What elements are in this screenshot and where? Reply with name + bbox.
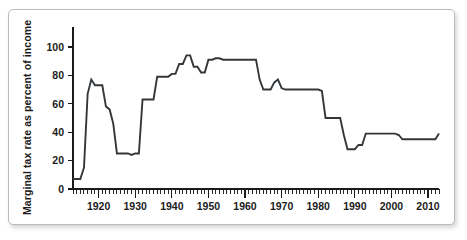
x-tick-label: 1950 — [197, 200, 221, 212]
x-tick-label: 1960 — [233, 200, 257, 212]
figure-root: Marginal tax rate as percent of income 0… — [0, 0, 467, 240]
x-tick-label: 1930 — [124, 200, 148, 212]
figure-frame: Marginal tax rate as percent of income 0… — [8, 9, 455, 225]
x-tick-label: 1940 — [160, 200, 184, 212]
data-series-line — [73, 55, 439, 179]
y-tick-label: 60 — [52, 98, 64, 110]
x-tick-label-group: 1920193019401950196019701980199020002010 — [87, 200, 440, 212]
y-tick-label: 20 — [52, 154, 64, 166]
y-tick-label-group: 020406080100 — [46, 41, 64, 195]
x-tick-label: 2010 — [416, 200, 440, 212]
y-tick-label: 80 — [52, 69, 64, 81]
chart-svg: 020406080100 192019301940195019601970198… — [31, 21, 443, 217]
x-tick-label: 1970 — [270, 200, 294, 212]
x-tick-label: 2000 — [380, 200, 404, 212]
y-tick-label: 0 — [58, 183, 64, 195]
y-tick-label: 40 — [52, 126, 64, 138]
y-tick-label: 100 — [46, 41, 64, 53]
axis-spines — [73, 27, 439, 189]
plot-area: 020406080100 192019301940195019601970198… — [31, 21, 443, 217]
x-tick-label: 1920 — [87, 200, 111, 212]
x-tick-label: 1990 — [343, 200, 367, 212]
x-tick-label: 1980 — [307, 200, 331, 212]
